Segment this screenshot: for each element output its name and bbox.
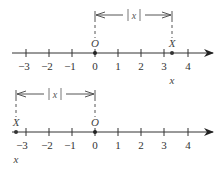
coordinate-label: x [169, 74, 175, 86]
tick-label: −3 [16, 139, 28, 151]
tick-label: 3 [161, 60, 167, 72]
absolute-value-diagram: x O X −3 −2 −1 0 1 2 3 [0, 0, 223, 173]
abs-x-label: x [131, 10, 137, 21]
tick-label: −3 [18, 60, 30, 72]
tick-label: 0 [92, 60, 98, 72]
x-point [170, 51, 174, 55]
tick-label: 2 [138, 60, 144, 72]
origin-label: O [91, 37, 99, 49]
point-label: X [12, 116, 21, 128]
number-line-positive: x O X −3 −2 −1 0 1 2 3 [12, 9, 213, 86]
origin-point [93, 51, 97, 55]
tick-labels: −3 −2 −1 0 1 2 3 4 [18, 60, 191, 72]
tick-label: 2 [138, 139, 144, 151]
origin-label: O [91, 116, 99, 128]
tick-label: −2 [41, 139, 53, 151]
tick-label: −1 [64, 60, 76, 72]
tick-label: 0 [92, 139, 98, 151]
distance-bracket: x [95, 9, 172, 21]
tick-label: −2 [41, 60, 53, 72]
tick-label: 1 [115, 139, 121, 151]
tick-label: 4 [185, 60, 191, 72]
tick-labels: −3 −2 −1 0 1 2 3 4 [16, 139, 191, 151]
abs-x-label: x [52, 89, 58, 100]
point-label: X [168, 37, 177, 49]
tick-label: 3 [161, 139, 167, 151]
tick-label: 1 [115, 60, 121, 72]
distance-bracket: x [16, 88, 95, 100]
x-point [14, 130, 18, 134]
origin-point [93, 130, 97, 134]
tick-label: 4 [185, 139, 191, 151]
number-line-negative: x X O −3 −2 −1 0 1 2 3 4 x [12, 88, 213, 165]
coordinate-label: x [13, 153, 19, 165]
tick-label: −1 [64, 139, 76, 151]
